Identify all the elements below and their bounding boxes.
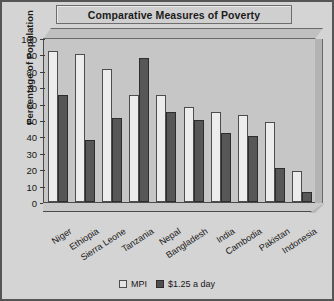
plot-wall-right-3d <box>315 39 323 203</box>
plot-floor-3d <box>43 203 323 212</box>
plot-area: 0102030405060708090100 <box>43 39 315 203</box>
y-axis-tick-label: 10 <box>7 181 37 192</box>
bar-dollar125[interactable] <box>302 192 312 202</box>
legend-swatch-icon <box>119 280 127 288</box>
bar-group <box>263 38 288 202</box>
bar-mpi[interactable] <box>156 95 166 202</box>
bar-group <box>127 38 152 202</box>
bar-dollar125[interactable] <box>58 95 68 202</box>
bar-dollar125[interactable] <box>139 58 149 202</box>
legend-label: $1.25 a day <box>168 279 215 289</box>
bar-mpi[interactable] <box>102 69 112 202</box>
legend-label: MPI <box>131 279 147 289</box>
y-axis-tick-label: 70 <box>7 83 37 94</box>
bar-group <box>72 38 97 202</box>
bar-group <box>235 38 260 202</box>
legend-swatch-icon <box>156 280 164 288</box>
bar-dollar125[interactable] <box>166 112 176 202</box>
y-axis-tick-label: 60 <box>7 99 37 110</box>
bar-mpi[interactable] <box>75 54 85 202</box>
bar-mpi[interactable] <box>211 112 221 202</box>
bar-group <box>99 38 124 202</box>
bar-dollar125[interactable] <box>221 133 231 202</box>
bar-group <box>208 38 233 202</box>
bar-dollar125[interactable] <box>85 140 95 202</box>
y-axis-tick-label: 30 <box>7 148 37 159</box>
bar-group <box>45 38 70 202</box>
bar-mpi[interactable] <box>184 107 194 202</box>
bar-group <box>290 38 315 202</box>
bar-group <box>154 38 179 202</box>
bar-dollar125[interactable] <box>275 168 285 202</box>
y-axis-tick-label: 50 <box>7 116 37 127</box>
y-axis-tick-label: 0 <box>7 198 37 209</box>
bar-dollar125[interactable] <box>112 118 122 202</box>
bar-mpi[interactable] <box>48 51 58 202</box>
chart-title-box: Comparative Measures of Poverty <box>56 5 292 24</box>
chart-title: Comparative Measures of Poverty <box>88 9 260 21</box>
plot-outer: 0102030405060708090100 <box>43 28 331 226</box>
bar-mpi[interactable] <box>265 122 275 202</box>
y-axis-tick-label: 80 <box>7 66 37 77</box>
legend-item[interactable]: MPI <box>119 279 147 289</box>
y-axis-tick-label: 100 <box>7 34 37 45</box>
chart-legend: MPI$1.25 a day <box>2 279 332 289</box>
y-axis-tick-label: 40 <box>7 132 37 143</box>
legend-item[interactable]: $1.25 a day <box>156 279 215 289</box>
bar-dollar125[interactable] <box>194 120 204 202</box>
bar-mpi[interactable] <box>238 115 248 202</box>
bar-mpi[interactable] <box>129 95 139 202</box>
x-axis-labels: NigerEthiopiaSierra LeoneTanzaniaNepalBa… <box>43 226 331 276</box>
bar-group <box>181 38 206 202</box>
bar-dollar125[interactable] <box>248 136 258 202</box>
chart-container: Comparative Measures of Poverty Percenta… <box>0 0 334 301</box>
bar-mpi[interactable] <box>292 171 302 202</box>
y-axis-tick-label: 20 <box>7 165 37 176</box>
y-axis-tick-label: 90 <box>7 50 37 61</box>
